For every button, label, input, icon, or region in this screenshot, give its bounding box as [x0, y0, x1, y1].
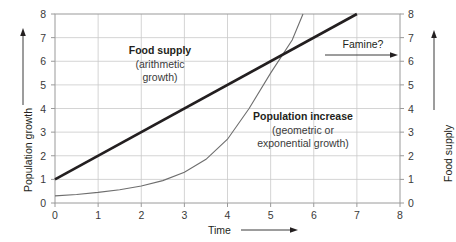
population-increase-annotation-header: Population increase: [228, 110, 378, 124]
up-arrow-icon-left-axis: [20, 28, 26, 105]
x-axis-tick-label: 0: [47, 210, 63, 221]
y-axis-left-tick-label: 8: [32, 9, 46, 20]
x-axis-tick-label: 3: [176, 210, 192, 221]
bottom-axis-ticks: [55, 203, 400, 207]
x-axis-tick-label: 8: [392, 210, 408, 221]
population-increase-annotation: Population increase (geometric or expone…: [228, 110, 378, 151]
x-axis-tick-label: 7: [349, 210, 365, 221]
chart-figure: 8 7 6 5 4 3 2 1 0 8 7 6 5 4 3 2 1 0 0 1 …: [0, 0, 456, 242]
y-axis-left-tick-label: 1: [32, 174, 46, 185]
y-axis-right-tick-label: 5: [408, 80, 422, 91]
y-axis-left-tick-label: 4: [32, 104, 46, 115]
population-increase-annotation-subline-1: (geometric or: [228, 124, 378, 138]
left-axis-ticks: [51, 14, 55, 203]
y-axis-right-tick-label: 0: [408, 198, 422, 209]
y-axis-left-tick-label: 0: [32, 198, 46, 209]
y-axis-right-tick-label: 4: [408, 104, 422, 115]
y-axis-left-tick-label: 5: [32, 80, 46, 91]
x-axis-tick-label: 2: [133, 210, 149, 221]
population-increase-annotation-subline-2: exponential growth): [228, 137, 378, 151]
food-supply-annotation-subline-1: (arithmetic: [98, 58, 222, 72]
food-supply-annotation-subline-2: growth): [98, 71, 222, 85]
x-axis-tick-label: 6: [306, 210, 322, 221]
y-axis-right-tick-label: 6: [408, 56, 422, 67]
y-axis-left-title: Population growth: [22, 108, 34, 192]
food-supply-annotation-header: Food supply: [98, 44, 222, 58]
y-axis-right-tick-label: 8: [408, 9, 422, 20]
y-axis-right-tick-label: 1: [408, 174, 422, 185]
y-axis-left-tick-label: 6: [32, 56, 46, 67]
y-axis-left-tick-label: 7: [32, 33, 46, 44]
food-supply-annotation: Food supply (arithmetic growth): [98, 44, 222, 85]
y-axis-left-tick-label: 3: [32, 127, 46, 138]
y-axis-right-tick-label: 7: [408, 33, 422, 44]
up-arrow-icon-right-axis: [431, 30, 437, 110]
y-axis-left-tick-label: 2: [32, 151, 46, 162]
y-axis-right-tick-label: 2: [408, 151, 422, 162]
famine-annotation: Famine?: [322, 38, 404, 50]
y-axis-right-title: Food supply: [442, 125, 454, 182]
x-axis-tick-label: 5: [263, 210, 279, 221]
y-axis-right-tick-label: 3: [408, 127, 422, 138]
x-axis-tick-label: 4: [220, 210, 236, 221]
x-axis-title: Time: [208, 224, 231, 236]
x-axis-tick-label: 1: [90, 210, 106, 221]
right-arrow-icon-time-axis: [241, 227, 298, 233]
